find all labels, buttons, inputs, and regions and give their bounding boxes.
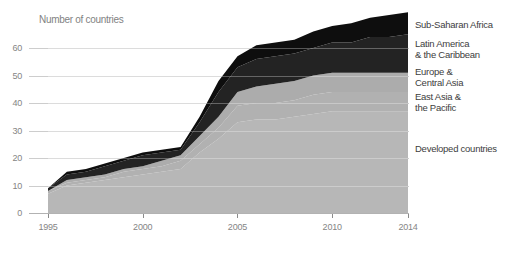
x-tick-label: 2005 [228,222,247,232]
x-tick-label: 2000 [133,222,152,232]
y-tick-label: 40 [12,98,22,108]
legend-item-sub-saharan-africa: Sub-Saharan Africa [415,20,493,31]
legend-label-line: Developed countries [415,144,497,155]
y-tick-label: 10 [12,181,22,191]
legend-item-latin-america-caribbean: Latin America& the Caribbean [415,39,480,60]
legend-item-europe-central-asia: Europe &Central Asia [415,67,463,88]
legend: Sub-Saharan AfricaLatin America& the Car… [415,0,513,253]
legend-item-east-asia-pacific: East Asia &the Pacific [415,92,461,113]
legend-label-line: Europe & [415,67,463,78]
y-tick-label: 0 [17,208,22,218]
legend-label-line: Sub-Saharan Africa [415,20,493,31]
y-tick-label: 20 [12,153,22,163]
y-tick-label: 50 [12,71,22,81]
x-tick-label: 2010 [323,222,342,232]
legend-label-line: the Pacific [415,103,461,114]
legend-label-line: East Asia & [415,92,461,103]
x-tick-label: 1995 [38,222,57,232]
y-tick-label: 30 [12,126,22,136]
legend-label-line: & the Caribbean [415,50,480,61]
legend-label-line: Central Asia [415,78,463,89]
chart-figure: Number of countries 01020304050601995200… [0,0,513,253]
legend-label-line: Latin America [415,39,480,50]
y-tick-label: 60 [12,43,22,53]
legend-item-developed-countries: Developed countries [415,144,497,155]
